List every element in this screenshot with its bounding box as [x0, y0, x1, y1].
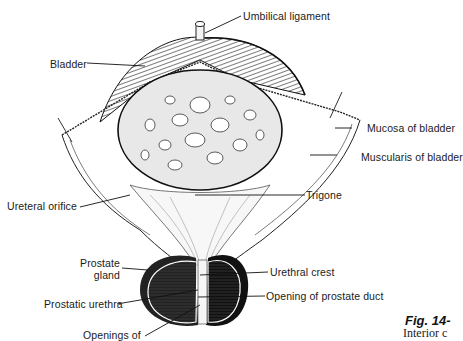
- label-prostatic-urethra: Prostatic urethra: [44, 298, 123, 310]
- label-urethral-crest: Urethral crest: [270, 266, 334, 278]
- umbilical-ligament-stub: [196, 22, 205, 41]
- label-umbilical-ligament: Umbilical ligament: [243, 10, 330, 22]
- figure-caption: Interior c: [403, 326, 447, 341]
- label-bladder: Bladder: [50, 58, 87, 70]
- label-prostate-gland: Prostate gland: [78, 257, 120, 281]
- label-openings-of: Openings of: [83, 329, 141, 341]
- trigone: [130, 185, 270, 265]
- label-ureteral-orifice: Ureteral orifice: [7, 200, 77, 212]
- label-mucosa-of-bladder: Mucosa of bladder: [367, 122, 455, 134]
- label-prostate-gland-line2: gland: [78, 269, 120, 281]
- label-opening-of-prostate-duct: Opening of prostate duct: [266, 290, 383, 302]
- bladder-mucosa: [118, 70, 282, 190]
- label-trigone: Trigone: [306, 189, 342, 201]
- label-prostate-gland-line1: Prostate: [78, 257, 120, 269]
- label-muscularis-of-bladder: Muscularis of bladder: [361, 151, 463, 163]
